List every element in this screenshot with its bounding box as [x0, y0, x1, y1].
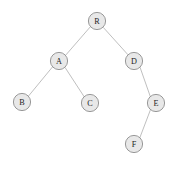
tree-node-d: D — [125, 52, 142, 69]
tree-node-label-f: F — [132, 140, 137, 149]
tree-edge-d-e — [140, 67, 150, 97]
tree-node-f: F — [125, 135, 142, 152]
tree-node-label-c: C — [87, 99, 93, 108]
tree-edge-a-c — [65, 67, 84, 96]
binary-tree-graphic: RADBCEF — [0, 0, 179, 171]
tree-node-label-a: A — [56, 57, 62, 66]
tree-node-label-d: D — [131, 57, 137, 66]
tree-edge-e-f — [140, 109, 151, 137]
tree-edge-r-d — [103, 27, 128, 55]
tree-node-label-e: E — [153, 99, 158, 108]
tree-node-label-r: R — [94, 17, 100, 26]
figure-caption — [0, 159, 179, 171]
tree-edges — [28, 27, 150, 138]
tree-node-c: C — [81, 94, 98, 111]
tree-node-a: A — [50, 52, 67, 69]
tree-edge-a-b — [28, 67, 52, 96]
tree-node-b: B — [13, 93, 30, 110]
tree-node-r: R — [88, 12, 105, 29]
tree-node-e: E — [147, 94, 164, 111]
tree-node-label-b: B — [19, 98, 25, 107]
tree-figure: RADBCEF — [0, 0, 179, 171]
tree-edge-r-a — [66, 27, 91, 56]
